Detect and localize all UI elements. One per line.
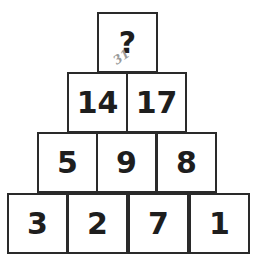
pyramid-cell: 5	[37, 132, 98, 193]
cell-value: 1	[209, 206, 230, 241]
pyramid-cell: 9	[96, 132, 157, 193]
pyramid-cell: 14	[67, 72, 128, 133]
cell-value: 17	[136, 85, 178, 120]
pyramid-cell: 3	[7, 193, 68, 254]
pyramid-cell: 7	[128, 193, 189, 254]
pyramid-cell-top: ? 31	[97, 12, 158, 73]
cell-value: 7	[148, 206, 169, 241]
number-pyramid: ? 31 14 17 5 9 8 3 2 7 1	[0, 0, 268, 268]
pyramid-cell: 17	[126, 72, 187, 133]
cell-value: 5	[57, 145, 78, 180]
cell-value: 9	[116, 145, 137, 180]
pyramid-cell: 8	[156, 132, 217, 193]
cell-value: 8	[176, 145, 197, 180]
cell-value: 2	[87, 206, 108, 241]
cell-value: 14	[77, 85, 119, 120]
cell-value: 3	[27, 206, 48, 241]
pyramid-cell: 1	[189, 193, 250, 254]
pyramid-cell: 2	[67, 193, 128, 254]
